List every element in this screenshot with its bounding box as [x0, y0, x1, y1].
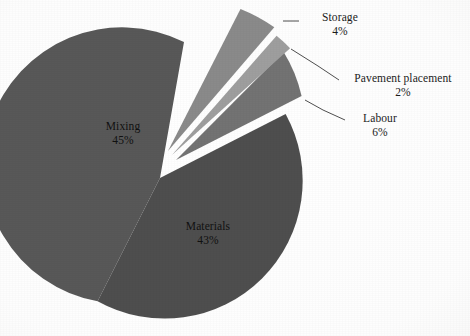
- slice-label-labour-name: Labour: [347, 112, 413, 126]
- slice-label-labour-percent: 6%: [347, 126, 413, 140]
- slice-label-labour: Labour 6%: [347, 112, 413, 139]
- pie-chart-canvas: [0, 0, 470, 336]
- slice-label-materials: Materials 43%: [165, 220, 251, 247]
- slice-label-mixing: Mixing 45%: [86, 120, 160, 147]
- leader-line-labour: [305, 100, 345, 120]
- slice-label-mixing-name: Mixing: [86, 120, 160, 134]
- slice-label-storage: Storage 4%: [302, 11, 378, 38]
- slice-label-storage-name: Storage: [302, 11, 378, 25]
- slice-label-mixing-percent: 45%: [86, 134, 160, 148]
- slice-label-pavement-placement: Pavement placement 2%: [341, 72, 465, 99]
- pie-chart-figure: Mixing 45% Materials 43% Storage 4% Pave…: [0, 0, 470, 336]
- slice-label-storage-percent: 4%: [302, 25, 378, 39]
- pie-slices-group: [0, 9, 303, 319]
- slice-label-pavement-placement-percent: 2%: [341, 86, 465, 100]
- slice-label-materials-percent: 43%: [165, 234, 251, 248]
- slice-label-materials-name: Materials: [165, 220, 251, 234]
- slice-label-pavement-placement-name: Pavement placement: [341, 72, 465, 86]
- leader-line-pavement: [291, 49, 339, 80]
